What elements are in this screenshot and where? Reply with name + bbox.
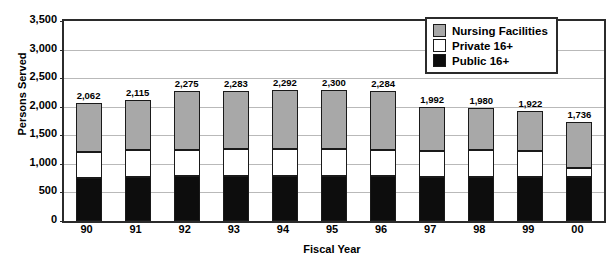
bar-value-label: 2,284 xyxy=(371,78,395,89)
bar-group: 2,062 xyxy=(76,21,102,221)
legend-item: Private 16+ xyxy=(433,38,548,53)
bar-segment xyxy=(566,122,592,168)
legend-item: Nursing Facilities xyxy=(433,23,548,38)
bar-segment xyxy=(76,152,102,178)
bar-segment xyxy=(174,150,200,177)
bar-value-label: 2,300 xyxy=(322,77,346,88)
y-axis-tick-mark xyxy=(60,221,64,222)
bar-value-label: 2,115 xyxy=(126,87,149,98)
x-axis-tick-label: 92 xyxy=(179,223,191,235)
bar-value-label: 1,922 xyxy=(518,98,542,109)
bar-group: 1,736 xyxy=(566,21,592,221)
bar-segment xyxy=(566,168,592,177)
stacked-bar-chart: Persons Served 05001,0001,5002,0002,5003… xyxy=(0,0,608,265)
bar-segment xyxy=(517,151,543,177)
bar-group: 2,115 xyxy=(125,21,151,221)
x-axis-tick-label: 98 xyxy=(473,223,485,235)
chart-legend: Nursing Facilities Private 16+ Public 16… xyxy=(425,17,558,74)
bar-value-label: 2,062 xyxy=(77,90,101,101)
bar-segment xyxy=(419,177,445,221)
x-axis-tick-label: 00 xyxy=(571,223,583,235)
bar-segment xyxy=(517,111,543,151)
bar-segment xyxy=(223,176,249,221)
bar-segment xyxy=(468,150,494,177)
bar-segment xyxy=(125,150,151,177)
x-axis-tick-label: 95 xyxy=(326,223,338,235)
bar-segment xyxy=(468,177,494,221)
legend-swatch-public-16-plus-icon xyxy=(433,54,446,67)
legend-label: Nursing Facilities xyxy=(452,25,548,37)
x-axis-title: Fiscal Year xyxy=(62,243,602,255)
y-axis-tick-label: 2,500 xyxy=(29,71,57,81)
bar-group: 2,275 xyxy=(174,21,200,221)
x-axis-tick-labels: 9091929394959697989900 xyxy=(62,223,602,241)
bar-segment xyxy=(321,90,347,149)
bar-segment xyxy=(125,177,151,221)
bar-segment xyxy=(370,176,396,221)
bar-segment xyxy=(468,108,494,150)
bar-segment xyxy=(223,149,249,176)
legend-label: Private 16+ xyxy=(452,40,513,52)
y-axis-tick-label: 3,500 xyxy=(29,14,57,24)
bar-value-label: 1,980 xyxy=(469,95,493,106)
bar-segment xyxy=(76,103,102,152)
legend-label: Public 16+ xyxy=(452,55,509,67)
bar-group: 2,283 xyxy=(223,21,249,221)
y-axis-tick-label: 3,000 xyxy=(29,43,57,53)
bar-value-label: 2,292 xyxy=(273,77,297,88)
y-axis-tick-label: 500 xyxy=(39,185,57,195)
bar-segment xyxy=(174,91,200,150)
y-axis-tick-label: 1,000 xyxy=(29,157,57,167)
bar-value-label: 1,992 xyxy=(420,94,444,105)
bar-segment xyxy=(76,178,102,221)
x-axis-tick-label: 96 xyxy=(375,223,387,235)
bar-segment xyxy=(223,91,249,150)
legend-swatch-nursing-facilities-icon xyxy=(433,24,446,37)
bar-value-label: 2,275 xyxy=(175,78,199,89)
x-axis-tick-label: 97 xyxy=(424,223,436,235)
bar-group: 2,300 xyxy=(321,21,347,221)
bar-segment xyxy=(419,107,445,150)
bar-segment xyxy=(370,91,396,150)
y-axis-tick-labels: 05001,0001,5002,0002,5003,0003,500 xyxy=(0,0,57,265)
bar-value-label: 2,283 xyxy=(224,78,248,89)
y-axis-tick-label: 0 xyxy=(51,214,57,224)
bar-segment xyxy=(321,176,347,221)
bar-segment xyxy=(517,177,543,221)
bar-segment xyxy=(272,176,298,221)
bar-group: 2,284 xyxy=(370,21,396,221)
x-axis-tick-label: 93 xyxy=(228,223,240,235)
bar-segment xyxy=(272,149,298,176)
bar-segment xyxy=(321,149,347,176)
bar-segment xyxy=(125,100,151,150)
x-axis-tick-label: 91 xyxy=(130,223,142,235)
bar-segment xyxy=(174,176,200,221)
legend-swatch-private-16-plus-icon xyxy=(433,39,446,52)
y-axis-tick-label: 1,500 xyxy=(29,128,57,138)
bar-segment xyxy=(419,151,445,178)
y-axis-tick-label: 2,000 xyxy=(29,100,57,110)
bar-segment xyxy=(272,90,298,149)
x-axis-tick-label: 94 xyxy=(277,223,289,235)
bar-group: 2,292 xyxy=(272,21,298,221)
legend-item: Public 16+ xyxy=(433,53,548,68)
bar-value-label: 1,736 xyxy=(568,109,592,120)
x-axis-tick-label: 99 xyxy=(522,223,534,235)
bar-segment xyxy=(566,177,592,221)
x-axis-tick-label: 90 xyxy=(80,223,92,235)
bar-segment xyxy=(370,150,396,177)
